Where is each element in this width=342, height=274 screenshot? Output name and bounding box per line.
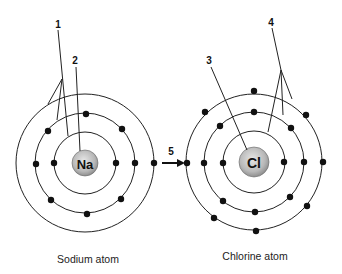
chlorine-electron-shell-2	[251, 109, 257, 115]
label-4: 4	[268, 18, 274, 28]
chlorine-symbol: Cl	[247, 157, 261, 170]
sodium-electron-shell-1	[113, 160, 119, 166]
chlorine-electron-shell-3	[320, 159, 326, 165]
chlorine-electron-shell-3	[211, 215, 217, 221]
leader-2	[76, 67, 80, 151]
label-2: 2	[72, 56, 78, 66]
chlorine-electron-shell-2	[287, 194, 293, 200]
sodium-electron-shell-3	[151, 160, 157, 166]
label-3: 3	[206, 56, 212, 66]
chlorine-electron-shell-2	[301, 159, 307, 165]
sodium-electron-shell-2	[33, 161, 39, 167]
chlorine-electron-shell-3	[253, 228, 259, 234]
leader-3	[211, 67, 247, 150]
chlorine-electron-shell-2	[217, 123, 223, 129]
chlorine-electron-shell-2	[220, 198, 226, 204]
chlorine-electron-shell-3	[251, 88, 257, 94]
sodium-caption: Sodium atom	[57, 253, 119, 265]
chlorine-electron-shell-3	[304, 203, 310, 209]
leader-4-branch-outer	[281, 70, 292, 99]
sodium-electron-shell-2	[119, 126, 125, 132]
chlorine-electron-shell-3	[303, 112, 309, 118]
sodium-electron-shell-2	[83, 111, 89, 117]
label-5: 5	[168, 147, 174, 157]
sodium-electron-shell-2	[84, 211, 90, 217]
chlorine-caption: Chlorine atom	[222, 250, 287, 262]
diagram-canvas	[0, 0, 342, 274]
leader-4-branch-inner	[268, 70, 281, 132]
leader-4-main	[272, 28, 281, 70]
sodium-electron-shell-2	[48, 197, 54, 203]
chlorine-electron-shell-1	[281, 159, 287, 165]
chlorine-electron-shell-3	[202, 109, 208, 115]
chlorine-electron-shell-2	[288, 125, 294, 131]
chlorine-electron-shell-3	[184, 160, 190, 166]
chlorine-electron-shell-2	[252, 209, 258, 215]
ionic-bond-diagram: Na Cl 1 2 3 4 5 Sodium atom Chlorine ato…	[0, 0, 342, 274]
leader-4-branch-middle	[281, 70, 283, 115]
sodium-electron-shell-2	[45, 128, 51, 134]
chlorine-electron-shell-2	[201, 160, 207, 166]
label-1: 1	[55, 20, 61, 30]
sodium-electron-shell-2	[118, 196, 124, 202]
chlorine-electron-shell-1	[220, 160, 226, 166]
sodium-electron-shell-2	[132, 160, 138, 166]
sodium-electron-shell-1	[51, 160, 57, 166]
sodium-symbol: Na	[77, 158, 94, 171]
